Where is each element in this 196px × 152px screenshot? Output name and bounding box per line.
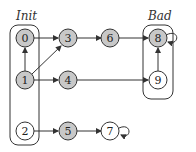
node-1: 1 [16, 71, 34, 89]
node-6: 6 [101, 29, 119, 47]
svg-text:3: 3 [65, 32, 72, 45]
node-5: 5 [59, 122, 77, 140]
svg-text:2: 2 [22, 125, 29, 138]
bad-group-label: Bad [147, 9, 172, 23]
edge-8-8 [166, 33, 177, 42]
svg-text:1: 1 [22, 74, 29, 87]
init-group-label: Init [15, 9, 37, 23]
edge-7-7 [119, 127, 129, 136]
node-7: 7 [101, 122, 119, 140]
edge-1-3 [32, 46, 61, 74]
node-4: 4 [59, 71, 77, 89]
svg-text:5: 5 [65, 125, 72, 138]
node-2: 2 [16, 122, 34, 140]
state-graph: Init Bad 0 1 2 3 4 5 [0, 0, 196, 152]
node-8: 8 [149, 29, 167, 47]
svg-text:8: 8 [155, 32, 162, 45]
node-9: 9 [149, 71, 167, 89]
node-3: 3 [59, 29, 77, 47]
svg-text:6: 6 [107, 32, 114, 45]
svg-text:7: 7 [107, 125, 114, 138]
svg-text:0: 0 [22, 32, 29, 45]
node-0: 0 [16, 29, 34, 47]
svg-text:4: 4 [65, 74, 72, 87]
svg-text:9: 9 [155, 74, 162, 87]
